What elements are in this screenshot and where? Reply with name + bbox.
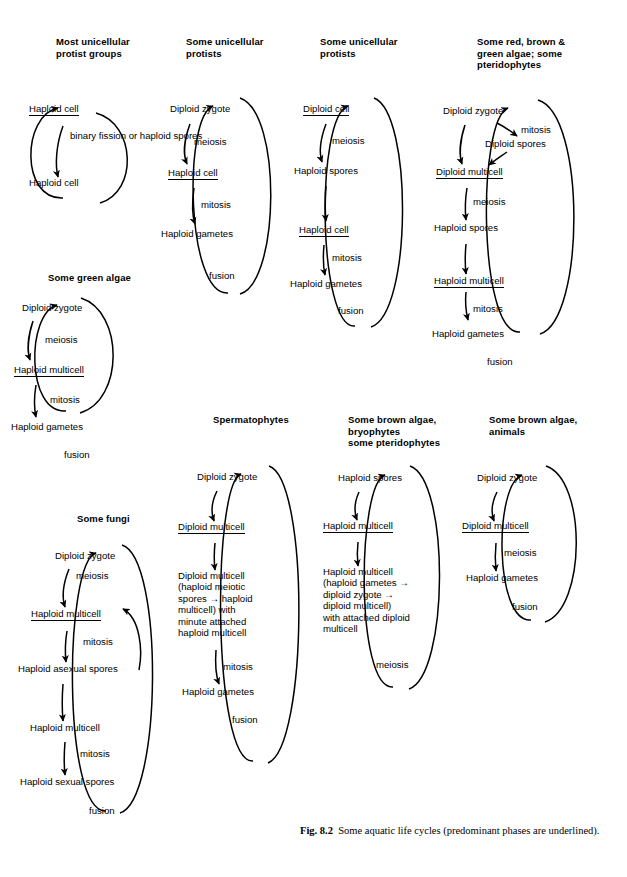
node-diploid-zygote: Diploid zygote xyxy=(197,471,257,483)
process-mitosis: mitosis xyxy=(50,394,80,406)
process-meiosis: meiosis xyxy=(376,659,409,671)
node-haploid-multicell-2: Haploid multicell xyxy=(30,722,100,734)
node-diploid-multicell: Diploid multicell xyxy=(178,521,245,533)
node-haploid-multicell: Haploid multicell xyxy=(434,275,504,287)
process-meiosis: meiosis xyxy=(45,334,78,346)
node-diploid-zygote: Diploid zygote xyxy=(443,105,503,117)
node-haploid-gametes: Haploid gametes xyxy=(161,228,233,240)
node-diploid-multicell: Diploid multicell xyxy=(462,520,529,532)
figure-number: Fig. 8.2 xyxy=(300,825,333,836)
cycle-1-arrows xyxy=(31,108,127,203)
process-fusion: fusion xyxy=(64,449,90,461)
cycle-2-arrows xyxy=(185,98,271,294)
process-meiosis: meiosis xyxy=(76,570,109,582)
process-mitosis-2: mitosis xyxy=(80,748,110,760)
cycle-heading-some-unicellular-protists-a: Some unicellular protists xyxy=(186,36,264,59)
node-haploid-cell: Haploid cell xyxy=(299,224,349,236)
node-haploid-asexual-spores: Haploid asexual spores xyxy=(18,663,118,675)
cycle-heading-some-brown-algae-animals: Some brown algae, animals xyxy=(489,414,577,437)
cycle-heading-spermatophytes: Spermatophytes xyxy=(213,414,289,426)
node-haploid-spores: Haploid spores xyxy=(434,222,498,234)
cycle-9-arrows xyxy=(492,466,576,622)
node-diploid-spores: Diploid spores xyxy=(485,138,546,150)
process-meiosis: meiosis xyxy=(473,196,506,208)
node-diploid-multicell: Diploid multicell xyxy=(436,166,503,178)
cycle-heading-some-unicellular-protists-b: Some unicellular protists xyxy=(320,36,398,59)
process-fusion: fusion xyxy=(338,305,364,317)
life-cycles-figure: Most unicellular protist groups Haploid … xyxy=(0,0,627,877)
cycle-4-arrows xyxy=(460,100,574,334)
process-binary-fission: binary fission or haploid spores xyxy=(70,130,202,142)
node-haploid-gametes: Haploid gametes xyxy=(182,686,254,698)
cycle-heading-some-fungi: Some fungi xyxy=(77,513,130,525)
process-mitosis: mitosis xyxy=(201,199,231,211)
process-meiosis: meiosis xyxy=(194,136,227,148)
cycle-heading-some-brown-algae-bryophytes: Some brown algae, bryophytes some pterid… xyxy=(348,414,440,449)
node-haploid-spores: Haploid spores xyxy=(338,472,402,484)
process-mitosis: mitosis xyxy=(473,303,503,315)
node-haploid-spores: Haploid spores xyxy=(294,165,358,177)
cycle-heading-some-red-brown-green-algae: Some red, brown & green algae; some pter… xyxy=(477,36,565,71)
node-diploid-zygote: Diploid zygote xyxy=(477,472,537,484)
process-fusion: fusion xyxy=(487,356,513,368)
process-mitosis-1: mitosis xyxy=(83,636,113,648)
node-haploid-gametes: Haploid gametes xyxy=(290,278,362,290)
node-haploid-multicell: Haploid multicell xyxy=(323,520,393,532)
process-mitosis-branch: mitosis xyxy=(521,124,551,136)
node-haploid-gametes: Haploid gametes xyxy=(11,421,83,433)
node-haploid-cell-bottom: Haploid cell xyxy=(29,177,79,189)
node-haploid-multicell-1: Haploid multicell xyxy=(31,608,101,620)
node-diploid-cell: Diploid cell xyxy=(303,103,349,115)
process-mitosis: mitosis xyxy=(332,252,362,264)
cycle-heading-some-green-algae: Some green algae xyxy=(48,272,131,284)
process-fusion: fusion xyxy=(89,805,115,817)
node-diploid-zygote: Diploid zygote xyxy=(22,302,82,314)
node-haploid-multicell-detail: Haploid multicell (haploid gametes → dip… xyxy=(323,566,439,634)
cycle-6-arrows xyxy=(62,545,152,813)
process-fusion: fusion xyxy=(232,714,258,726)
node-haploid-cell: Haploid cell xyxy=(168,167,218,179)
caption-text: Some aquatic life cycles (predominant ph… xyxy=(338,825,599,836)
node-haploid-multicell: Haploid multicell xyxy=(14,364,84,376)
process-fusion: fusion xyxy=(209,270,235,282)
cycle-heading-most-unicellular-protist-groups: Most unicellular protist groups xyxy=(56,36,130,59)
process-meiosis: meiosis xyxy=(332,135,365,147)
node-haploid-cell-top: Haploid cell xyxy=(29,103,79,115)
node-diploid-zygote: Diploid zygote xyxy=(170,103,230,115)
node-haploid-sexual-spores: Haploid sexual spores xyxy=(20,776,114,788)
process-meiosis: meiosis xyxy=(504,547,537,559)
process-mitosis: mitosis xyxy=(223,661,253,673)
process-fusion: fusion xyxy=(512,601,538,613)
node-haploid-gametes: Haploid gametes xyxy=(466,572,538,584)
node-haploid-gametes: Haploid gametes xyxy=(432,328,504,340)
figure-caption: Fig. 8.2 Some aquatic life cycles (predo… xyxy=(300,824,599,837)
node-diploid-zygote: Diploid zygote xyxy=(55,550,115,562)
node-diploid-multicell-detail: Diploid multicell (haploid meiotic spore… xyxy=(178,570,278,638)
cycle-3-arrows xyxy=(320,98,402,327)
